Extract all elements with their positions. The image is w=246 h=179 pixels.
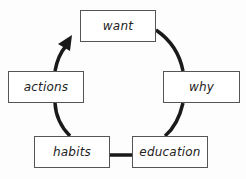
edge-why-education: [165, 103, 183, 136]
edge-habits-actions: [55, 103, 70, 136]
node-label: want: [103, 19, 133, 33]
node-label: habits: [53, 145, 91, 159]
node-habits: habits: [34, 136, 110, 168]
edge-actions-want: [55, 46, 66, 71]
node-want: want: [80, 10, 156, 42]
node-actions: actions: [8, 71, 84, 103]
edge-want-why: [156, 30, 183, 71]
node-education: education: [132, 136, 208, 168]
node-label: education: [139, 145, 200, 159]
node-why: why: [163, 71, 240, 103]
node-label: why: [189, 80, 214, 94]
node-label: actions: [24, 80, 69, 94]
